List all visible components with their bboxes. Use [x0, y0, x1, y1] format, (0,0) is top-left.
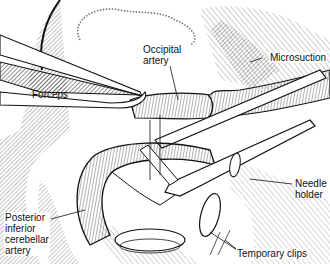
pica-label: Posterior inferior cerebellar artery — [4, 212, 50, 256]
pica-label-line4: artery — [5, 245, 49, 256]
needle-holder-label: Needle holder — [295, 178, 327, 200]
microsuction-label: Microsuction — [269, 52, 327, 63]
forceps-label: Forceps — [32, 89, 68, 100]
needle-holder-label-line1: Needle — [295, 178, 327, 189]
needle-holder-label-line2: holder — [295, 189, 327, 200]
occipital-artery-label-line1: Occipital — [143, 44, 181, 55]
pica-label-line1: Posterior — [5, 212, 49, 223]
forceps-instrument — [0, 35, 146, 108]
occipital-artery-label: Occipital artery — [143, 44, 181, 66]
temporary-clips-label: Temporary clips — [236, 248, 308, 259]
pica-label-line2: inferior — [5, 223, 49, 234]
dura-edge — [78, 9, 195, 45]
occipital-artery-label-line2: artery — [143, 55, 181, 66]
pica-label-line3: cerebellar — [5, 234, 49, 245]
